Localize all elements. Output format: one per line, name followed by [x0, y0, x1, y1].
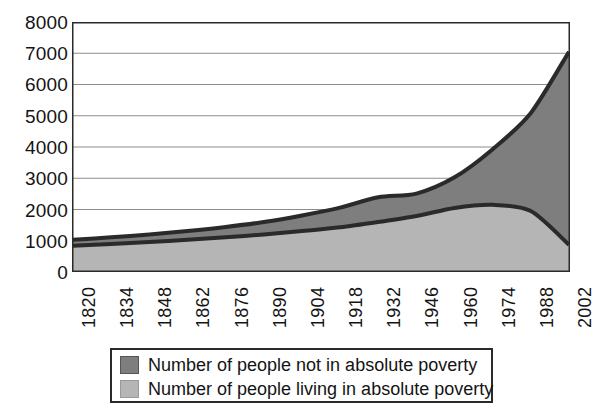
y-tick-label: 4000	[6, 138, 68, 157]
legend-item-label: Number of people living in absolute pove…	[148, 379, 493, 399]
y-tick-label: 6000	[6, 75, 68, 94]
x-tick-label: 1960	[462, 287, 480, 328]
legend-item-in-poverty: Number of people living in absolute pove…	[120, 377, 491, 401]
y-tick-label: 8000	[6, 13, 68, 32]
y-axis: 8000 7000 6000 5000 4000 3000 2000 1000 …	[0, 0, 68, 300]
x-tick-label: 1918	[347, 287, 365, 328]
legend-item-label: Number of people not in absolute poverty	[148, 355, 477, 375]
plot-area	[72, 22, 570, 272]
poverty-area-chart: 8000 7000 6000 5000 4000 3000 2000 1000 …	[0, 0, 605, 416]
y-tick-label: 7000	[6, 44, 68, 63]
x-tick-label: 2002	[576, 287, 594, 328]
x-tick-label: 1820	[80, 287, 98, 328]
x-tick-label: 1904	[309, 287, 327, 328]
y-tick-label: 5000	[6, 107, 68, 126]
y-tick-label: 2000	[6, 201, 68, 220]
x-tick-label: 1876	[233, 287, 251, 328]
legend-swatch-icon	[120, 356, 139, 374]
x-tick-label: 1946	[423, 287, 441, 328]
x-tick-label: 1834	[118, 287, 136, 328]
legend: Number of people not in absolute poverty…	[110, 348, 493, 403]
y-tick-label: 3000	[6, 169, 68, 188]
legend-swatch-icon	[120, 380, 139, 398]
x-tick-label: 1988	[538, 287, 556, 328]
x-tick-label: 1848	[156, 287, 174, 328]
x-tick-label: 1974	[500, 287, 518, 328]
y-tick-label: 1000	[6, 232, 68, 251]
y-tick-label: 0	[6, 263, 68, 282]
plot-svg	[72, 22, 570, 272]
legend-item-not-in-poverty: Number of people not in absolute poverty	[120, 353, 491, 377]
x-tick-label: 1890	[271, 287, 289, 328]
x-tick-label: 1862	[194, 287, 212, 328]
x-tick-label: 1932	[385, 287, 403, 328]
